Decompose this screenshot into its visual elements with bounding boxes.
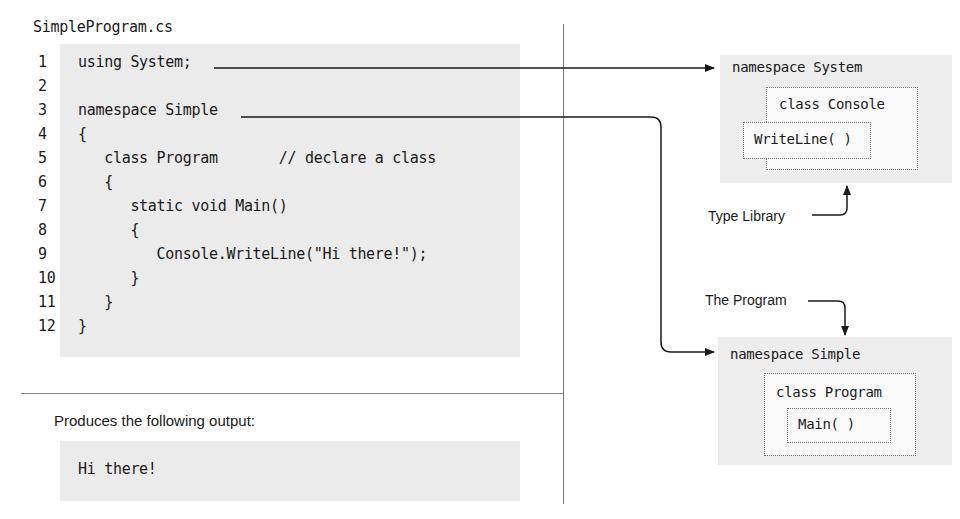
namespace-simple-arrow [241,117,714,352]
type-library-arrow [812,186,847,215]
connector-arrows [0,0,960,519]
the-program-arrow [808,301,845,335]
